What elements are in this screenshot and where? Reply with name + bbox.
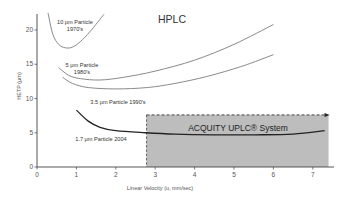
y-tick-label: 20 — [26, 26, 34, 33]
y-tick-label: 0 — [29, 163, 33, 170]
series-label: 5 μm Particle — [66, 62, 99, 68]
x-tick-label: 6 — [272, 171, 276, 178]
chart-title: HPLC — [158, 13, 186, 25]
x-tick-label: 1 — [75, 171, 79, 178]
x-tick-label: 7 — [311, 171, 315, 178]
curve-5um-1980s — [59, 25, 274, 81]
x-tick-label: 4 — [193, 171, 197, 178]
y-tick-label: 10 — [26, 95, 34, 102]
series-label: 10 μm Particle — [57, 19, 93, 25]
y-tick-label: 5 — [29, 129, 33, 136]
x-tick-label: 3 — [153, 171, 157, 178]
series-label: 1970's — [67, 26, 84, 32]
y-tick-label: 15 — [26, 60, 34, 67]
x-tick-label: 0 — [35, 171, 39, 178]
hetp-vs-velocity-chart: 0123456705101520 HPLC Linear Velocity (u… — [0, 0, 346, 202]
y-axis-label: HETP (μm) — [16, 72, 22, 100]
acquity-uplc-label: ACQUITY UPLC® System — [188, 123, 288, 133]
series-label: 3.5 μm Particle 1990's — [90, 99, 145, 105]
x-tick-label: 2 — [114, 171, 118, 178]
x-axis-label: Linear Velocity (u, mm/sec) — [127, 185, 193, 191]
series-label: 1980's — [74, 69, 91, 75]
acquity-uplc-region — [147, 113, 330, 167]
curve-3_5um-1990s — [63, 55, 274, 89]
x-tick-label: 5 — [232, 171, 236, 178]
series-label: 1.7 μm Particle 2004 — [75, 136, 126, 142]
